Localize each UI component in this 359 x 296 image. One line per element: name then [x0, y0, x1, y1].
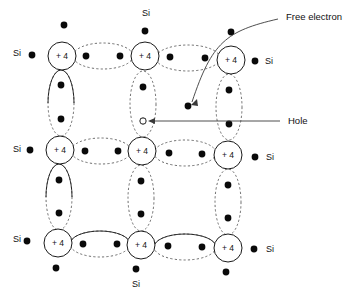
- electron-dot-outer-dot-left-r0: [29, 52, 36, 59]
- lattice-canvas: + 4+ 4+ 4+ 4+ 4+ 4+ 4+ 4+ 4 Free electro…: [0, 0, 359, 296]
- electron-dot-outer-dot-right-r2: [251, 246, 258, 253]
- arrowhead-free-electron-callout: [191, 99, 198, 106]
- vertical-bond-bond-v-c1-r0r1: [130, 71, 156, 137]
- electron-dot-outer-dot-top-c0: [61, 22, 68, 29]
- electron-dot-outer-dot-top-c1: [142, 28, 149, 35]
- atom-charge-label-atom-r2c1: + 4: [135, 240, 147, 250]
- atom-charge-label-atom-r0c2: + 4: [225, 55, 237, 65]
- electron-dot-bond-h-r0-c0c1-0: [83, 53, 90, 60]
- electron-dot-bond-v-c1-r1r2-0: [138, 178, 145, 185]
- si-label-si-right-middle: Si: [266, 152, 274, 162]
- callout-label-free-electron-callout: Free electron: [286, 11, 342, 22]
- horizontal-bond-bond-h-r0-c0c1: [73, 43, 133, 69]
- hole-marker: [140, 118, 146, 124]
- free-electron-dot: [185, 103, 192, 110]
- electron-dot-bond-v-c2-r0r1-1: [226, 121, 233, 128]
- electron-dot-bond-h-r0-c0c1-1: [117, 53, 124, 60]
- callout-group: Free electronHole: [148, 11, 342, 126]
- electron-dot-bond-h-r2-c0c1-1: [114, 241, 121, 248]
- electron-dot-outer-dot-left-r2: [24, 238, 31, 245]
- callout-label-hole-callout: Hole: [288, 115, 308, 126]
- si-label-si-left-top: Si: [13, 48, 21, 58]
- electron-dot-bond-h-r2-c1c2-1: [199, 244, 206, 251]
- atom-charge-label-atom-r1c2: + 4: [222, 150, 234, 160]
- si-label-si-left-middle: Si: [13, 144, 21, 154]
- electron-dot-bond-h-r1-c0c1-0: [82, 148, 89, 155]
- si-label-si-bottom: Si: [132, 279, 140, 289]
- electron-dot-bond-h-r1-c1c2-1: [199, 151, 206, 158]
- electron-dot-bond-h-r0-c1c2-1: [202, 55, 209, 62]
- electron-dot-bond-v-c0-r1r2-0: [56, 177, 63, 184]
- electron-dot-outer-dot-bottom-c0: [53, 265, 60, 272]
- electron-dot-bond-v-c0-r0r1-1: [58, 116, 65, 123]
- electron-dot-bond-v-c2-r1r2-1: [225, 215, 232, 222]
- atom-charge-label-atom-r1c1: + 4: [136, 146, 148, 156]
- electron-dot-bond-h-r2-c0c1-0: [80, 241, 87, 248]
- si-label-si-right-top: Si: [265, 56, 273, 66]
- atom-charge-label-atom-r0c1: + 4: [139, 51, 151, 61]
- vertical-bond-bond-v-c2-r0r1: [216, 74, 242, 140]
- electron-dot-bond-v-c2-r1r2-0: [225, 182, 232, 189]
- electron-dot-bond-v-c1-r1r2-1: [138, 211, 145, 218]
- horizontal-bond-solid-bond-h-r2-c1c2: [154, 234, 216, 247]
- atom-group: + 4+ 4+ 4+ 4+ 4+ 4+ 4+ 4+ 4: [44, 42, 245, 262]
- vertical-bond-bond-v-c2-r1r2: [215, 169, 241, 235]
- horizontal-bond-bond-h-r1-c0c1: [71, 138, 131, 164]
- atom-charge-label-atom-r0c0: + 4: [56, 51, 68, 61]
- si-label-si-top: Si: [142, 8, 150, 18]
- silicon-lattice-diagram: + 4+ 4+ 4+ 4+ 4+ 4+ 4+ 4+ 4 Free electro…: [0, 0, 359, 296]
- si-label-si-left-bottom: Si: [13, 234, 21, 244]
- electron-dot-outer-dot-bottom-c2: [223, 269, 230, 276]
- electron-dot-bond-v-c0-r1r2-1: [56, 210, 63, 217]
- atom-charge-label-atom-r2c0: + 4: [52, 238, 64, 248]
- vertical-bond-bond-v-c1-r1r2: [128, 165, 154, 231]
- electron-dot-bond-v-c1-r0r1-0: [140, 84, 147, 91]
- atom-charge-label-atom-r1c0: + 4: [54, 145, 66, 155]
- electron-dot-bond-h-r1-c1c2-0: [166, 150, 173, 157]
- electron-dot-outer-dot-bottom-c1: [133, 266, 140, 273]
- electron-dot-bond-h-r2-c1c2-0: [165, 243, 172, 250]
- horizontal-bond-bond-h-r1-c1c2: [154, 140, 216, 166]
- electron-dot-bond-v-c2-r0r1-0: [226, 87, 233, 94]
- electron-dot-outer-dot-left-r1: [27, 147, 34, 154]
- electron-dot-bond-h-r0-c1c2-0: [167, 54, 174, 61]
- horizontal-bond-solid-bond-h-r2-c0c1: [70, 231, 130, 244]
- arrowhead-hole-callout: [148, 118, 155, 124]
- electron-dot-outer-dot-right-r1: [252, 154, 259, 161]
- atom-charge-label-atom-r2c2: + 4: [222, 243, 234, 253]
- electron-dot-bond-v-c0-r0r1-0: [58, 82, 65, 89]
- electron-dot-bond-h-r1-c0c1-1: [115, 148, 122, 155]
- si-label-si-right-bottom: Si: [266, 244, 274, 254]
- electron-dot-outer-dot-right-r0: [252, 58, 259, 65]
